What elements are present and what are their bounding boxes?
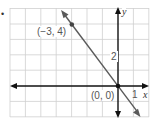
y-tick-label-2: 2 — [110, 51, 118, 62]
y-axis-up-arrow-icon — [115, 7, 121, 14]
point-label-neg3-4: (−3, 4) — [37, 26, 66, 37]
y-axis-label: y — [122, 6, 126, 17]
point-origin — [116, 84, 121, 89]
x-axis — [10, 83, 149, 89]
line-lower-arrow-icon — [133, 109, 141, 117]
x-axis-left-arrow-icon — [10, 83, 17, 89]
x-tick-label-1: 1 — [132, 89, 138, 100]
point-neg3-4 — [70, 22, 75, 27]
origin-label: (0, 0) — [91, 90, 114, 101]
coordinate-graph — [0, 0, 155, 126]
line-upper-arrow-icon — [61, 10, 69, 18]
x-axis-label: x — [143, 89, 147, 100]
